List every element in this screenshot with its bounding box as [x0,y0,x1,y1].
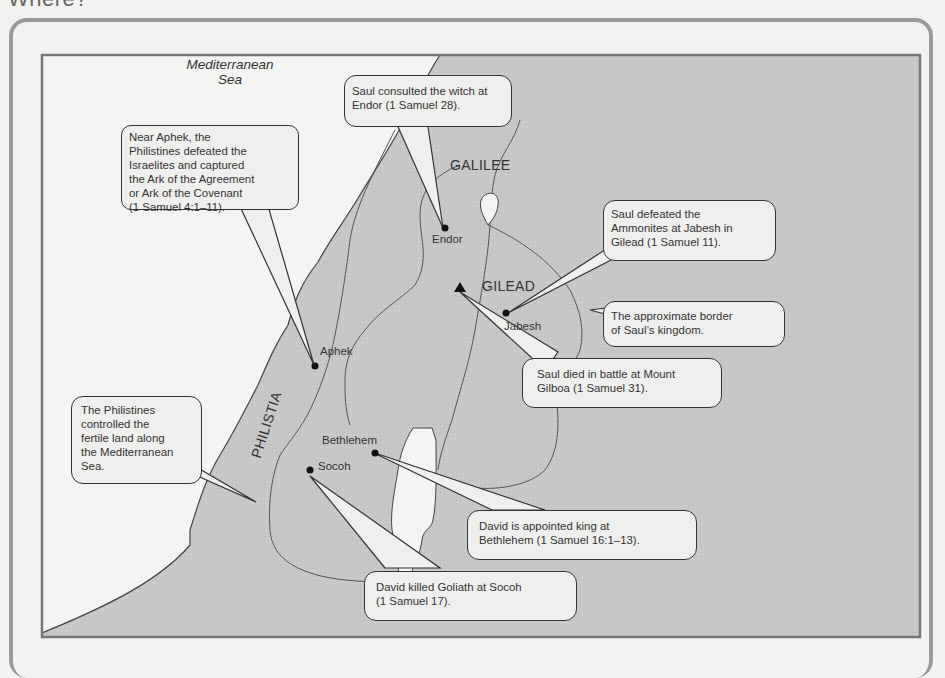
callout-endor: Saul consulted the witch at Endor (1 Sam… [344,75,512,127]
place-label-socoh: Socoh [318,460,351,472]
place-label-aphek: Aphek [320,345,353,357]
callout-philistines: The Philistines controlled the fertile l… [71,396,202,484]
sea-label: Mediterranean Sea [160,57,300,87]
place-label-endor: Endor [432,233,463,245]
callout-gilboa: Saul died in battle at Mount Gilboa (1 S… [522,358,722,408]
aphek-marker [312,363,319,370]
region-label-galilee: GALILEE [450,157,510,173]
place-label-jabesh: Jabesh [504,320,541,332]
callout-socoh: David killed Goliath at Socoh (1 Samuel … [364,571,577,621]
socoh-marker [307,467,314,474]
bethlehem-marker [372,450,379,457]
place-label-bethlehem: Bethlehem [322,434,377,446]
callout-jabesh: Saul defeated the Ammonites at Jabesh in… [603,200,776,261]
callout-bethlehem: David is appointed king at Bethlehem (1 … [467,510,697,560]
callout-aphek: Near Aphek, the Philistines defeated the… [121,125,299,210]
endor-marker [442,225,449,232]
region-label-gilead: GILEAD [482,278,535,294]
jabesh-marker [503,310,510,317]
callout-border: The approximate border of Saul’s kingdom… [603,301,785,347]
